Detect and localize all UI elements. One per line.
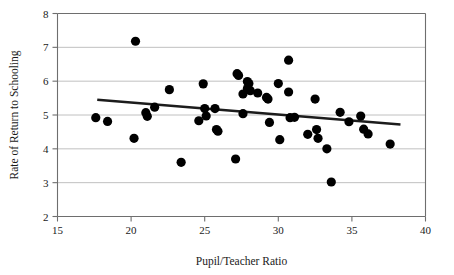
x-axis-title: Pupil/Teacher Ratio <box>196 255 288 268</box>
data-point <box>336 108 345 117</box>
data-point <box>313 134 322 143</box>
data-point <box>322 144 331 153</box>
x-axis-ticks: 152025303540 <box>52 217 432 236</box>
data-point <box>344 117 353 126</box>
data-point <box>274 79 283 88</box>
x-tick-label: 35 <box>346 224 358 236</box>
data-point <box>177 158 186 167</box>
data-point <box>290 113 299 122</box>
data-point <box>238 109 247 118</box>
y-tick-label: 6 <box>43 75 49 87</box>
data-point <box>275 135 284 144</box>
data-point <box>356 111 365 120</box>
data-point <box>199 79 208 88</box>
data-point <box>231 154 240 163</box>
data-point <box>311 94 320 103</box>
data-point <box>303 130 312 139</box>
data-point <box>202 111 211 120</box>
x-tick-label: 25 <box>199 224 211 236</box>
y-tick-label: 3 <box>43 177 49 189</box>
x-tick-label: 30 <box>273 224 285 236</box>
y-tick-label: 2 <box>43 211 49 223</box>
y-tick-label: 5 <box>43 109 49 121</box>
x-tick-label: 15 <box>52 224 64 236</box>
data-point <box>210 104 219 113</box>
data-point <box>234 71 243 80</box>
data-point <box>91 113 100 122</box>
data-point <box>143 112 152 121</box>
data-point <box>103 117 112 126</box>
data-point <box>150 103 159 112</box>
data-point <box>213 127 222 136</box>
y-tick-label: 4 <box>43 143 49 155</box>
chart-canvas: 152025303540 2345678 Pupil/Teacher Ratio… <box>0 0 454 275</box>
data-point <box>129 134 138 143</box>
scatter-plot-figure: 152025303540 2345678 Pupil/Teacher Ratio… <box>0 0 454 275</box>
data-point <box>165 85 174 94</box>
x-tick-label: 40 <box>420 224 432 236</box>
y-tick-label: 8 <box>43 8 49 20</box>
data-point <box>386 139 395 148</box>
y-axis-title: Rate of Return to Schooling <box>8 50 21 179</box>
x-tick-label: 20 <box>126 224 138 236</box>
data-point <box>327 177 336 186</box>
data-point <box>312 125 321 134</box>
y-axis-ticks: 2345678 <box>43 8 58 223</box>
data-point <box>284 87 293 96</box>
data-point <box>131 37 140 46</box>
data-point <box>284 56 293 65</box>
y-tick-label: 7 <box>43 41 49 53</box>
data-point <box>253 88 262 97</box>
data-points-group <box>91 37 395 187</box>
data-point <box>363 129 372 138</box>
data-point <box>263 94 272 103</box>
data-point <box>265 118 274 127</box>
